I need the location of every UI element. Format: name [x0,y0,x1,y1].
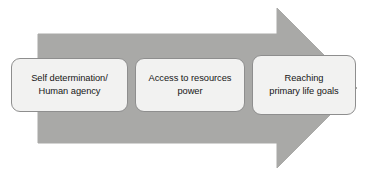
process-step-3-label: Reachingprimary life goals [265,72,342,99]
process-step-box-2: Access to resourcespower [135,58,245,112]
process-step-3-line-2: primary life goals [269,86,338,96]
process-step-1-line-1: Self determination/ [31,73,108,83]
process-step-box-1: Self determination/Human agency [11,58,128,112]
process-step-3-line-1: Reaching [285,73,324,83]
process-step-1-line-2: Human agency [39,86,101,96]
process-step-1-label: Self determination/Human agency [27,72,112,99]
process-step-2-line-2: power [177,86,202,96]
process-flow-diagram: Self determination/Human agency Access t… [0,0,366,178]
process-step-2-line-1: Access to resources [149,73,232,83]
process-step-box-3: Reachingprimary life goals [252,55,356,115]
process-step-2-label: Access to resourcespower [145,72,236,99]
